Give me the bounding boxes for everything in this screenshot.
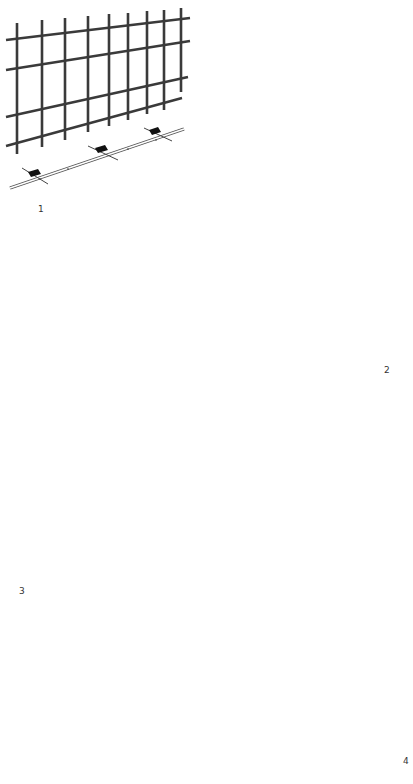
diagram-canvas [0, 0, 413, 784]
figure-1-flat-mesh-panel [6, 8, 190, 188]
figure-1-label: 1 [38, 204, 44, 214]
clip-icon [28, 169, 41, 177]
figure-4-label: 4 [403, 756, 409, 766]
clip-icon [95, 145, 108, 153]
figure-2-label: 2 [384, 365, 390, 375]
figure-3-label: 3 [19, 586, 25, 596]
clip-icon [149, 127, 161, 135]
mesh-horizontal-bars [6, 18, 190, 146]
